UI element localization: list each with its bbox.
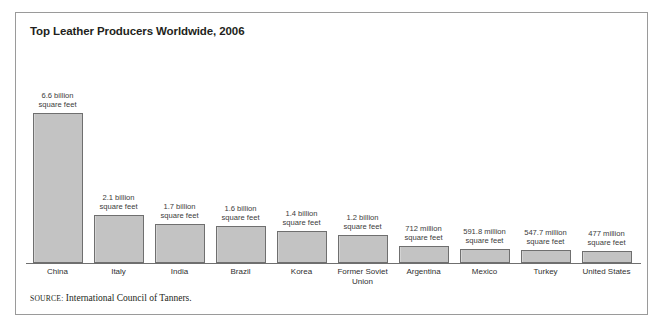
figure-frame: Top Leather Producers Worldwide, 2006 6.… xyxy=(15,12,648,315)
x-tick-label-turkey: Turkey xyxy=(518,267,573,287)
x-tick-label-argentina: Argentina xyxy=(396,267,451,287)
bar-rect[interactable] xyxy=(338,235,388,263)
source-note: SOURCE: International Council of Tanners… xyxy=(30,293,192,303)
x-tick-label-china: China xyxy=(30,267,85,287)
bar-rect[interactable] xyxy=(216,226,266,263)
bar-value-label: 6.6 billion square feet xyxy=(39,91,77,110)
x-tick-label-united-states: United States xyxy=(579,267,634,287)
bar-item-former-soviet-union[interactable]: 1.2 billion square feet xyxy=(335,53,390,263)
page-title: Top Leather Producers Worldwide, 2006 xyxy=(30,25,244,37)
bar-series: 6.6 billion square feet 2.1 billion squa… xyxy=(30,53,634,263)
bar-value-label: 1.2 billion square feet xyxy=(344,213,382,232)
bar-value-label: 712 million square feet xyxy=(405,224,443,243)
bar-value-label: 1.7 billion square feet xyxy=(161,202,199,221)
x-axis-line xyxy=(26,263,641,264)
bar-rect[interactable] xyxy=(277,231,327,263)
bar-value-label: 1.6 billion square feet xyxy=(222,204,260,223)
bar-item-italy[interactable]: 2.1 billion square feet xyxy=(91,53,146,263)
bar-item-mexico[interactable]: 591.8 million square feet xyxy=(457,53,512,263)
bar-item-china[interactable]: 6.6 billion square feet xyxy=(30,53,85,263)
bar-item-india[interactable]: 1.7 billion square feet xyxy=(152,53,207,263)
x-axis-tick-labels: China Italy India Brazil Korea Former So… xyxy=(30,267,634,287)
bar-rect[interactable] xyxy=(94,215,144,263)
source-note-label: SOURCE: xyxy=(30,294,63,303)
bar-item-brazil[interactable]: 1.6 billion square feet xyxy=(213,53,268,263)
bar-value-label: 2.1 billion square feet xyxy=(100,193,138,212)
x-tick-label-former-soviet-union: Former Soviet Union xyxy=(335,267,390,287)
bar-rect[interactable] xyxy=(460,249,510,263)
x-tick-label-mexico: Mexico xyxy=(457,267,512,287)
bar-rect[interactable] xyxy=(33,113,83,263)
bar-value-label: 547.7 million square feet xyxy=(524,228,567,247)
bar-item-korea[interactable]: 1.4 billion square feet xyxy=(274,53,329,263)
bar-item-united-states[interactable]: 477 million square feet xyxy=(579,53,634,263)
bar-value-label: 591.8 million square feet xyxy=(463,227,506,246)
bar-value-label: 477 million square feet xyxy=(588,229,626,248)
plot-area: 6.6 billion square feet 2.1 billion squa… xyxy=(30,53,634,263)
bar-rect[interactable] xyxy=(582,251,632,263)
source-note-text: International Council of Tanners. xyxy=(63,293,191,303)
x-tick-label-brazil: Brazil xyxy=(213,267,268,287)
x-tick-label-korea: Korea xyxy=(274,267,329,287)
bar-rect[interactable] xyxy=(155,224,205,263)
bar-rect[interactable] xyxy=(521,250,571,263)
bar-value-label: 1.4 billion square feet xyxy=(283,209,321,228)
x-tick-label-india: India xyxy=(152,267,207,287)
bar-item-argentina[interactable]: 712 million square feet xyxy=(396,53,451,263)
bar-rect[interactable] xyxy=(399,246,449,263)
bar-item-turkey[interactable]: 547.7 million square feet xyxy=(518,53,573,263)
x-tick-label-italy: Italy xyxy=(91,267,146,287)
